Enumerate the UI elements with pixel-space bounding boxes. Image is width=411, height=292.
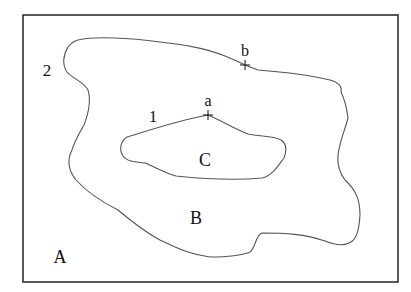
- label-curve-1: 1: [149, 107, 158, 126]
- curve-2: [64, 38, 360, 257]
- label-curve-2: 2: [43, 61, 52, 80]
- label-point-b: b: [241, 42, 249, 59]
- region-diagram: a b 1 2 A B C: [0, 0, 411, 292]
- label-region-b: B: [190, 208, 202, 228]
- point-b-marker: [240, 60, 250, 70]
- label-region-c: C: [199, 150, 211, 170]
- point-a-marker: [203, 110, 213, 120]
- label-point-a: a: [204, 92, 211, 109]
- label-region-a: A: [54, 247, 67, 267]
- frame-region-a: [23, 15, 398, 282]
